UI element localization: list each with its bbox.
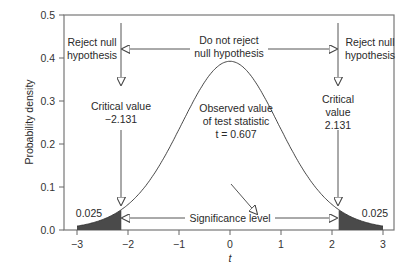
reject-left-label: Reject null [67, 36, 116, 48]
tail-left-label: 0.025 [76, 207, 102, 219]
y-tick-label: 0.5 [40, 9, 55, 21]
x-tick-label: −2 [122, 238, 134, 250]
x-axis-label: t [229, 252, 233, 264]
y-tick-label: 0.1 [40, 181, 55, 193]
significance-label: Significance level [189, 212, 270, 224]
critical-left-value: −2.131 [105, 113, 138, 125]
x-axis: −3−2−10123 [71, 230, 386, 250]
y-tick-label: 0.0 [40, 224, 55, 236]
x-tick-label: 3 [380, 238, 386, 250]
observed-label: Observed value [199, 102, 273, 114]
observed-value: t = 0.607 [215, 128, 256, 140]
density-curve [77, 61, 383, 226]
do-not-reject-label: Do not reject [199, 34, 259, 46]
critical-right-label-2: value [325, 106, 350, 118]
x-tick-label: 1 [278, 238, 284, 250]
critical-left-label: Critical value [91, 100, 151, 112]
y-axis: 0.00.10.20.30.40.5 [40, 9, 64, 236]
reject-left-label-2: hypothesis [67, 49, 117, 61]
x-tick-label: −1 [173, 238, 185, 250]
y-tick-label: 0.2 [40, 138, 55, 150]
x-tick-label: −3 [71, 238, 83, 250]
critical-right-value: 2.131 [325, 119, 351, 131]
y-tick-label: 0.3 [40, 95, 55, 107]
do-not-reject-label-2: null hypothesis [194, 47, 263, 59]
t-distribution-chart: 0.00.10.20.30.40.5 −3−2−10123 Probabilit… [0, 0, 413, 268]
x-tick-label: 0 [227, 238, 233, 250]
reject-right-label-2: hypothesis [345, 49, 395, 61]
x-tick-label: 2 [329, 238, 335, 250]
reject-right-label: Reject null [345, 36, 394, 48]
y-tick-label: 0.4 [40, 52, 55, 64]
y-axis-label: Probability density [23, 79, 35, 165]
tail-right-label: 0.025 [362, 207, 388, 219]
observed-value-arrow [231, 184, 257, 214]
observed-label-2: of test statistic [203, 115, 270, 127]
critical-right-label: Critical [322, 93, 354, 105]
